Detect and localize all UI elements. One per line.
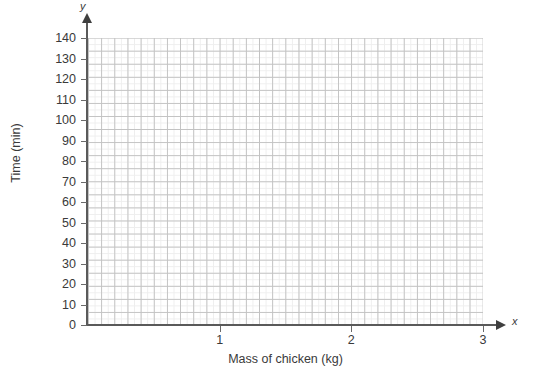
y-tick-mark [81,100,87,101]
y-tick-mark [81,243,87,244]
y-tick-label: 0 [36,319,76,332]
y-tick-mark [81,325,87,326]
y-axis-line [86,22,88,326]
y-tick-mark [81,284,87,285]
y-tick-label: 30 [36,258,76,271]
y-tick-label: 20 [36,278,76,291]
x-tick-label: 1 [200,334,240,347]
x-tick-mark [220,326,221,332]
y-tick-label: 90 [36,135,76,148]
y-tick-label: 100 [36,114,76,127]
y-tick-label: 10 [36,299,76,312]
y-tick-label: 120 [36,73,76,86]
y-tick-mark [81,79,87,80]
y-tick-mark [81,120,87,121]
plot-area [88,38,483,325]
x-axis-arrow-icon [496,320,506,330]
y-tick-mark [81,305,87,306]
y-tick-mark [81,202,87,203]
grid-major-lines [88,38,483,325]
x-tick-label: 2 [331,334,371,347]
x-axis-variable-label: x [512,315,518,327]
y-tick-label: 70 [36,176,76,189]
x-tick-label: 3 [463,334,503,347]
y-axis-variable-label: y [80,0,86,12]
y-tick-mark [81,223,87,224]
chart-container: y x 0102030405060708090100110120130140 1… [0,0,542,390]
y-tick-mark [81,264,87,265]
y-tick-label: 60 [36,196,76,209]
y-axis-title: Time (min) [9,73,23,233]
y-tick-mark [81,38,87,39]
y-tick-mark [81,182,87,183]
y-tick-mark [81,161,87,162]
x-axis-line [86,324,498,326]
y-tick-mark [81,59,87,60]
x-tick-mark [483,326,484,332]
y-axis-arrow-icon [82,13,92,23]
y-tick-label: 40 [36,237,76,250]
y-tick-label: 50 [36,217,76,230]
y-tick-mark [81,141,87,142]
y-tick-label: 130 [36,53,76,66]
x-axis-title: Mass of chicken (kg) [88,352,483,366]
grid-minor-lines [88,38,483,325]
y-tick-label: 110 [36,94,76,107]
y-tick-label: 140 [36,32,76,45]
y-tick-label: 80 [36,155,76,168]
x-tick-mark [351,326,352,332]
